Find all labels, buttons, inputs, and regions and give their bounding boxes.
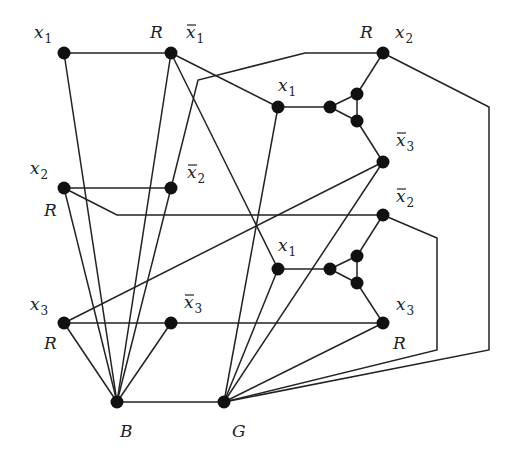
color-tag-x2: R bbox=[43, 200, 57, 220]
color-tag-x3: R bbox=[43, 333, 57, 353]
node-label-c2x1: x1 bbox=[278, 235, 296, 259]
graph-node-nx3 bbox=[165, 317, 178, 330]
graph-edge bbox=[64, 53, 117, 402]
node-label-c1x1: x1 bbox=[278, 75, 296, 99]
graph-node-c2t1 bbox=[324, 263, 337, 276]
graph-node-c2x3 bbox=[377, 317, 390, 330]
graph-edge bbox=[357, 283, 383, 323]
graph-node-c1x2 bbox=[377, 47, 390, 60]
graph-node-nx1 bbox=[165, 47, 178, 60]
color-tag-c2x3: R bbox=[392, 333, 406, 353]
node-label-x1: x1 bbox=[34, 22, 52, 46]
graph-edge bbox=[117, 53, 171, 402]
graph-edge bbox=[117, 323, 171, 402]
node-label-c1x2: x2 bbox=[395, 22, 413, 46]
graph-node-B bbox=[111, 396, 124, 409]
graph-node-x2 bbox=[58, 182, 71, 195]
color-tag-c1x2: R bbox=[359, 22, 373, 42]
graph-node-c2x1 bbox=[272, 263, 285, 276]
node-label-B: B bbox=[119, 421, 133, 441]
graph-edge bbox=[64, 162, 383, 323]
graph-edge bbox=[224, 323, 383, 402]
label-layer: x1x1Rx2Rx2x3Rx3BGx1x2Rx3x1x2x3R bbox=[30, 22, 414, 441]
graph-node-nx2 bbox=[165, 182, 178, 195]
graph-edge bbox=[224, 269, 278, 402]
graph-edge bbox=[171, 53, 278, 269]
graph-node-x1 bbox=[58, 47, 71, 60]
node-label-x3: x3 bbox=[30, 294, 48, 318]
graph-edge bbox=[64, 323, 117, 402]
graph-diagram: x1x1Rx2Rx2x3Rx3BGx1x2Rx3x1x2x3R bbox=[0, 0, 516, 460]
graph-edge bbox=[171, 53, 278, 107]
graph-node-c1t1 bbox=[324, 101, 337, 114]
node-label-c2x3: x3 bbox=[396, 294, 414, 318]
node-label-x2: x2 bbox=[30, 158, 48, 182]
graph-edge bbox=[357, 215, 383, 256]
graph-edge bbox=[357, 53, 383, 94]
graph-node-c1t3 bbox=[351, 115, 364, 128]
graph-edge bbox=[357, 121, 383, 162]
graph-edge bbox=[117, 188, 171, 402]
graph-node-c2t3 bbox=[351, 277, 364, 290]
graph-edge bbox=[64, 188, 117, 402]
graph-node-c1x1 bbox=[272, 101, 285, 114]
graph-node-c2nx2 bbox=[377, 209, 390, 222]
node-label-G: G bbox=[232, 421, 246, 441]
color-tag-nx1: R bbox=[149, 22, 163, 42]
node-label-nx2: x2 bbox=[187, 162, 205, 186]
graph-node-c1nx3 bbox=[377, 156, 390, 169]
node-label-c2nx2: x2 bbox=[396, 186, 414, 210]
node-label-c1nx3: x3 bbox=[396, 130, 414, 154]
graph-node-G bbox=[218, 396, 231, 409]
graph-edge bbox=[224, 107, 278, 402]
graph-node-x3 bbox=[58, 317, 71, 330]
graph-edge bbox=[64, 188, 383, 215]
graph-node-c1t2 bbox=[351, 88, 364, 101]
graph-node-c2t2 bbox=[351, 250, 364, 263]
